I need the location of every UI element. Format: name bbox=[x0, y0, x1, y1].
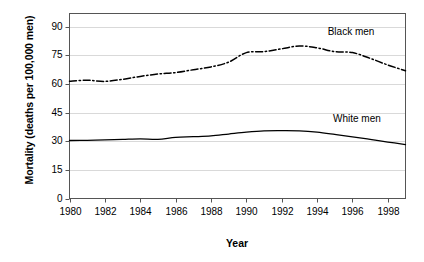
x-tick-label: 1982 bbox=[86, 207, 126, 217]
mortality-line-chart: Mortality (deaths per 100,000 men) Year … bbox=[0, 0, 424, 262]
series-label-white-men: White men bbox=[333, 113, 381, 124]
x-tick-label: 1980 bbox=[51, 207, 91, 217]
series-label-black-men: Black men bbox=[328, 26, 375, 37]
series-lines bbox=[70, 46, 406, 145]
y-tick-label: 60 bbox=[35, 79, 63, 89]
plot-canvas bbox=[0, 0, 424, 262]
x-tick-label: 1990 bbox=[227, 207, 267, 217]
y-tick-label: 90 bbox=[35, 22, 63, 32]
gridlines bbox=[70, 28, 406, 171]
series-line-black-men bbox=[70, 46, 406, 82]
y-tick-label: 45 bbox=[35, 108, 63, 118]
x-tick-label: 1984 bbox=[121, 207, 161, 217]
y-tick-label: 30 bbox=[35, 136, 63, 146]
series-line-white-men bbox=[70, 131, 406, 145]
x-tick-marks bbox=[71, 199, 389, 203]
x-tick-label: 1994 bbox=[298, 207, 338, 217]
x-tick-label: 1988 bbox=[192, 207, 232, 217]
y-tick-label: 75 bbox=[35, 50, 63, 60]
x-tick-label: 1998 bbox=[369, 207, 409, 217]
y-tick-label: 0 bbox=[35, 194, 63, 204]
x-tick-label: 1996 bbox=[333, 207, 373, 217]
y-tick-label: 15 bbox=[35, 165, 63, 175]
x-tick-label: 1986 bbox=[157, 207, 197, 217]
x-tick-label: 1992 bbox=[263, 207, 303, 217]
y-tick-marks bbox=[66, 28, 70, 200]
